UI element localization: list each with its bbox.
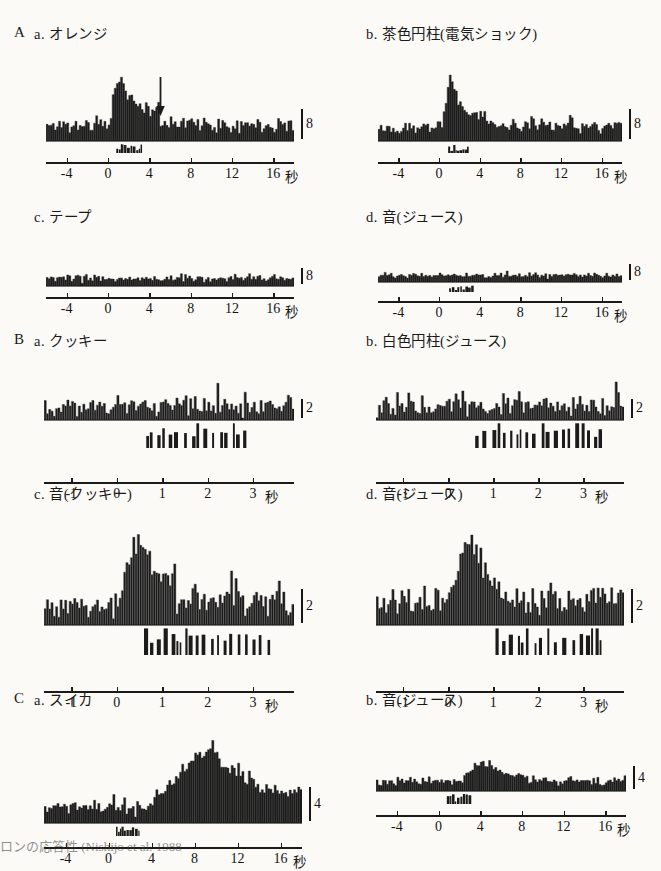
scale-bar-line [633,766,635,789]
axis-tick [561,297,562,302]
panel-B-d-title: d. 音(ジュース) [366,482,661,503]
event-trace-C-b [376,793,626,804]
scale-bar-line [631,399,633,418]
axis-tick [564,811,565,816]
axis-tick [273,293,274,298]
axis-tick [561,158,562,163]
axis-tick-label: 4 [146,301,153,317]
axis-tick [67,158,68,163]
scale-bar-line [301,109,303,139]
axis-tick [149,293,150,298]
axis-tick [605,811,606,816]
axis-tick-label: -4 [391,819,403,835]
axis-tick-label: 0 [436,166,443,182]
group-letter-C: C [14,690,24,707]
axis-tick [602,158,603,163]
group-letter-B: B [14,331,24,348]
axis-tick [480,811,481,816]
panel-B-b: b. 白色円柱(ジュース) 2-10123秒 [366,329,661,459]
axis-tick-label: 16 [266,301,280,317]
axis-unit-label: 秒 [614,166,627,186]
axis-unit-label: 秒 [285,166,298,186]
scale-bar-value: 4 [638,771,645,785]
axis-unit-label: 秒 [614,305,627,325]
axis-line [378,162,622,164]
axis-line [378,301,622,303]
axis-tick-label: 12 [225,166,239,182]
event-trace-A-b [378,143,622,153]
axis-tick-label: 0 [436,305,443,321]
panel-B-a: a. クッキー 2-10123秒 [34,329,334,459]
axis-tick [108,158,109,163]
scale-bar-value: 4 [314,797,321,811]
axis-tick [602,297,603,302]
event-trace-A-a [46,143,294,153]
event-trace-A-d [378,284,622,292]
scale-bar-line [309,787,311,821]
panel-C-b-title: b. 音(ジュース) [366,688,661,709]
axis-tick [108,293,109,298]
axis-tick [397,811,398,816]
panel-A-b-title: b. 茶色円柱(電気ショック) [366,22,661,43]
axis-tick-label: 12 [557,819,571,835]
panel-B-c-title: c. 音(クッキー) [34,482,334,503]
axis-tick-label: -4 [392,305,404,321]
event-trace-C-a [44,825,302,836]
axis-tick-label: 8 [187,166,194,182]
scale-bar-A-a: 8 [301,109,313,139]
axis-line [376,815,626,817]
scale-bar-B-b: 2 [631,399,643,418]
panel-A-d: d. 音(ジュース) 8-40481216秒 [366,205,661,315]
axis-tick-label: 16 [266,166,280,182]
scale-bar-B-c: 2 [301,589,313,623]
axis-tick [439,811,440,816]
axis-tick-label: 8 [517,305,524,321]
axis-tick [520,158,521,163]
scale-bar-line [629,109,631,139]
scale-bar-A-b: 8 [629,109,641,139]
axis-tick-label: 0 [105,301,112,317]
axis-tick-label: 0 [105,166,112,182]
panel-B-c: c. 音(クッキー) 2-10123秒 [34,482,334,662]
axis-tick-label: 16 [595,305,609,321]
scale-bar-value: 8 [306,269,313,283]
axis-tick-label: -4 [61,301,73,317]
scale-bar-value: 2 [636,401,643,415]
axis-tick [232,158,233,163]
axis-tick-label: 0 [435,819,442,835]
panel-A-c: c. テープ 8-40481216秒 [34,205,334,315]
figure-caption: ロンの応答性 (Nishijo et al. 1988 [0,836,661,855]
scale-bar-value: 8 [306,117,313,131]
axis-tick-label: 12 [225,301,239,317]
axis-tick [191,158,192,163]
axis-unit-label: 秒 [285,301,298,321]
scale-bar-value: 2 [306,599,313,613]
axis-tick [191,293,192,298]
scale-bar-A-d: 8 [629,264,641,280]
axis-tick-label: 4 [476,305,483,321]
scale-bar-line [629,264,631,280]
panel-A-c-title: c. テープ [34,205,334,226]
axis-tick-label: 12 [554,166,568,182]
panel-A-b: b. 茶色円柱(電気ショック) 8-40481216秒 [366,22,661,172]
axis-tick-label: 8 [518,819,525,835]
panel-B-b-title: b. 白色円柱(ジュース) [366,329,661,350]
axis-tick [520,297,521,302]
scale-bar-C-b: 4 [633,766,645,789]
axis-tick [480,158,481,163]
scale-bar-A-c: 8 [301,268,313,284]
axis-tick [273,158,274,163]
panel-A-a: a. オレンジ 8-40481216秒 [34,22,334,172]
event-trace-B-a [44,422,294,448]
axis-tick [522,811,523,816]
scale-bar-line [301,268,303,284]
scale-bar-value: 2 [306,401,313,415]
axis-tick-label: 16 [598,819,612,835]
axis-tick-label: -4 [61,166,73,182]
scale-bar-line [301,589,303,623]
axis-tick-label: 12 [554,305,568,321]
event-trace-B-b [376,422,624,448]
panel-C-a: a. スイカ 4-40481216秒 [34,688,334,838]
axis-tick [67,293,68,298]
